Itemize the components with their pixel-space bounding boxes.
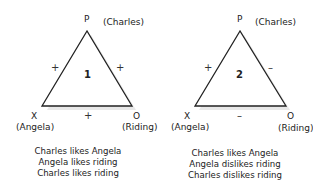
- caption-line: Angela likes riding: [0, 157, 156, 168]
- vertex-x-name: (Angela): [16, 122, 54, 132]
- captions: Charles likes Angela Angela dislikes rid…: [157, 148, 313, 181]
- edge-bottom-sign: –: [237, 111, 242, 121]
- vertex-x-letter: X: [184, 111, 190, 121]
- vertex-p-name: (Charles): [103, 17, 144, 27]
- vertex-o-name: (Riding): [122, 122, 157, 132]
- diagram-number: 2: [236, 69, 243, 80]
- balance-triangle-1: P (Charles) 1 + + + X (Angela) O (Riding…: [0, 0, 156, 182]
- edge-right-sign: –: [268, 63, 273, 73]
- caption-line: Charles dislikes riding: [157, 170, 313, 181]
- edge-left-sign: +: [51, 63, 59, 73]
- vertex-p-letter: P: [84, 14, 89, 24]
- vertex-o-letter: O: [133, 111, 140, 121]
- vertex-x-letter: X: [31, 111, 37, 121]
- captions: Charles likes Angela Angela likes riding…: [0, 146, 156, 179]
- vertex-o-name: (Riding): [278, 123, 313, 133]
- edge-right-sign: +: [116, 63, 124, 73]
- edge-left-sign: +: [204, 63, 212, 73]
- edge-bottom-sign: +: [84, 111, 92, 121]
- caption-line: Angela dislikes riding: [157, 159, 313, 170]
- balance-triangle-2: P (Charles) 2 + – – X (Angela) O (Riding…: [157, 0, 313, 182]
- caption-line: Charles likes Angela: [0, 146, 156, 157]
- caption-line: Charles likes Angela: [157, 148, 313, 159]
- vertex-p-name: (Charles): [255, 17, 296, 27]
- caption-line: Charles likes riding: [0, 168, 156, 179]
- vertex-x-name: (Angela): [171, 122, 209, 132]
- vertex-o-letter: O: [287, 111, 294, 121]
- vertex-p-letter: P: [237, 14, 242, 24]
- diagram-number: 1: [84, 69, 91, 80]
